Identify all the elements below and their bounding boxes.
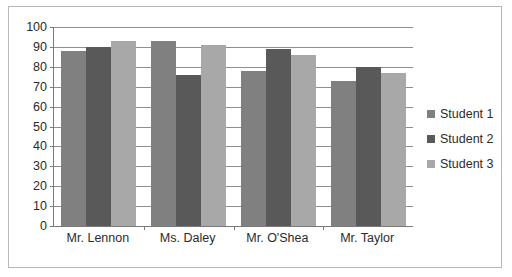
x-axis-tick-mark — [144, 226, 145, 230]
plot-area — [53, 27, 413, 227]
legend-swatch-icon — [427, 160, 435, 168]
chart-plot-wrapper: 1009080706050403020100 Mr. LennonMs. Dal… — [9, 7, 501, 267]
x-axis-tick-mark — [323, 226, 324, 230]
bar — [266, 49, 291, 226]
legend-swatch-icon — [427, 135, 435, 143]
y-axis-tick-mark — [50, 226, 54, 227]
x-axis-tick-label: Mr. O'Shea — [233, 231, 323, 245]
y-axis-tick-label: 30 — [17, 160, 47, 173]
bar — [176, 75, 201, 226]
bar — [356, 67, 381, 226]
bar-group — [54, 27, 144, 226]
y-axis-tick-label: 0 — [17, 220, 47, 233]
x-axis-tick-label: Ms. Daley — [143, 231, 233, 245]
x-axis: Mr. LennonMs. DaleyMr. O'SheaMr. Taylor — [53, 231, 412, 245]
bar — [291, 55, 316, 226]
bar — [151, 41, 176, 226]
x-axis-tick-label: Mr. Lennon — [53, 231, 143, 245]
bar — [381, 73, 406, 226]
legend-entry: Student 3 — [427, 157, 494, 171]
legend-label: Student 3 — [440, 157, 494, 171]
legend-label: Student 1 — [440, 107, 494, 121]
chart-frame: 1009080706050403020100 Mr. LennonMs. Dal… — [8, 6, 502, 268]
legend-swatch-icon — [427, 110, 435, 118]
y-axis-tick-label: 60 — [17, 100, 47, 113]
legend-entry: Student 2 — [427, 132, 494, 146]
y-axis: 1009080706050403020100 — [17, 21, 47, 220]
bar-group — [144, 27, 234, 226]
bar — [241, 71, 266, 226]
bar — [201, 45, 226, 226]
bar — [61, 51, 86, 226]
bar-group — [323, 27, 413, 226]
x-axis-tick-mark — [234, 226, 235, 230]
y-axis-tick-label: 80 — [17, 61, 47, 74]
bar-group — [234, 27, 324, 226]
chart-legend: Student 1Student 2Student 3 — [427, 107, 494, 171]
y-axis-tick-label: 40 — [17, 140, 47, 153]
y-axis-tick-label: 90 — [17, 41, 47, 54]
y-axis-tick-label: 100 — [17, 21, 47, 34]
y-axis-tick-label: 70 — [17, 80, 47, 93]
legend-label: Student 2 — [440, 132, 494, 146]
y-axis-tick-label: 20 — [17, 180, 47, 193]
bar — [111, 41, 136, 226]
bar — [86, 47, 111, 226]
legend-entry: Student 1 — [427, 107, 494, 121]
x-axis-tick-label: Mr. Taylor — [322, 231, 412, 245]
bars-layer — [54, 27, 413, 226]
y-axis-tick-label: 10 — [17, 200, 47, 213]
y-axis-tick-label: 50 — [17, 120, 47, 133]
bar — [331, 81, 356, 226]
